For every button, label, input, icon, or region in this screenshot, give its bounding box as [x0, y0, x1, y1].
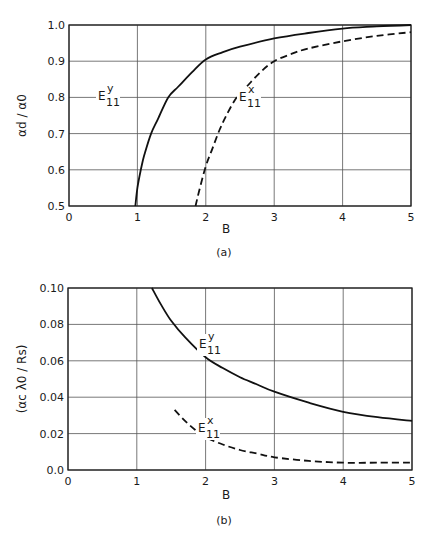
x-tick-label: 0 — [66, 211, 73, 224]
y-tick-label: 0.10 — [40, 282, 65, 295]
series-line-e11y — [152, 288, 412, 421]
figure: 0123450.50.60.70.80.91.0Bαd / α0(a)Ey11E… — [0, 0, 435, 548]
y-tick-label: 0.08 — [40, 318, 65, 331]
y-axis-label: (αc λ0 / Rs) — [15, 345, 29, 414]
series-line-e11y — [135, 25, 411, 206]
x-tick-label: 3 — [271, 475, 278, 488]
x-tick-label: 1 — [134, 211, 141, 224]
chart-panel-b: 0123450.00.020.040.060.080.10B(αc λ0 / R… — [15, 282, 416, 527]
x-tick-label: 3 — [271, 211, 278, 224]
y-tick-label: 0.0 — [47, 464, 65, 477]
x-tick-label: 4 — [340, 475, 347, 488]
y-tick-label: 0.8 — [48, 91, 66, 104]
x-tick-label: 5 — [408, 211, 415, 224]
chart-panel-a: 0123450.50.60.70.80.91.0Bαd / α0(a)Ey11E… — [15, 19, 415, 259]
x-axis-label: B — [222, 488, 230, 502]
panel-caption: (a) — [216, 246, 231, 259]
y-tick-label: 1.0 — [48, 19, 66, 32]
y-tick-label: 0.04 — [40, 391, 65, 404]
y-tick-label: 0.6 — [48, 164, 66, 177]
y-tick-label: 0.5 — [48, 200, 66, 213]
x-tick-label: 4 — [339, 211, 346, 224]
y-tick-label: 0.06 — [40, 355, 65, 368]
x-axis-label: B — [222, 222, 230, 236]
y-tick-label: 0.02 — [40, 428, 65, 441]
x-tick-label: 0 — [65, 475, 72, 488]
plot-frame — [69, 25, 411, 206]
panel-caption: (b) — [216, 514, 232, 527]
plot-frame — [68, 288, 412, 470]
x-tick-label: 2 — [202, 211, 209, 224]
gridlines — [69, 25, 411, 206]
series-line-e11x — [196, 32, 411, 206]
y-tick-label: 0.9 — [48, 55, 66, 68]
x-tick-label: 1 — [133, 475, 140, 488]
gridlines — [68, 288, 412, 470]
y-tick-label: 0.7 — [48, 128, 66, 141]
x-tick-label: 2 — [202, 475, 209, 488]
y-axis-label: αd / α0 — [15, 94, 29, 137]
x-tick-label: 5 — [409, 475, 416, 488]
